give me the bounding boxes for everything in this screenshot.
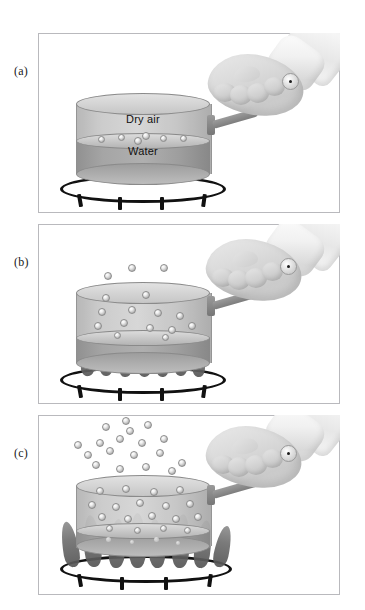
molecule	[160, 435, 168, 443]
molecule	[124, 515, 132, 523]
burner-leg	[164, 577, 168, 590]
molecule	[172, 515, 180, 523]
burner-leg	[118, 197, 122, 210]
molecule	[98, 136, 105, 143]
water-label: Water	[76, 145, 210, 157]
burner-leg	[118, 388, 122, 401]
evaporation-figure: Dry air Water	[0, 0, 365, 610]
molecule	[122, 485, 130, 493]
panel-label-a: (a)	[14, 64, 28, 79]
molecule	[134, 137, 142, 145]
ring-icon	[280, 445, 297, 462]
ring-icon	[282, 73, 299, 90]
panel-a: Dry air Water	[38, 33, 340, 213]
bubble	[154, 537, 159, 542]
panel-c	[38, 415, 340, 595]
molecule	[142, 291, 150, 299]
molecule	[142, 132, 150, 140]
molecule	[112, 503, 120, 511]
molecule	[92, 461, 100, 469]
panel-c-scene	[38, 415, 340, 595]
molecule	[150, 488, 158, 496]
pot: Dry air Water	[76, 93, 210, 185]
molecule	[184, 527, 191, 534]
molecule	[156, 449, 164, 457]
molecule	[94, 322, 102, 330]
panel-label-c: (c)	[14, 446, 28, 461]
molecule	[128, 264, 136, 272]
molecule	[88, 501, 96, 509]
bubble	[130, 540, 134, 544]
burner-leg	[207, 574, 213, 587]
burner-leg	[120, 577, 124, 590]
burner-leg	[160, 197, 164, 210]
molecule	[188, 322, 196, 330]
water-surface-ellipse	[76, 330, 210, 346]
molecule	[130, 451, 138, 459]
pot	[76, 282, 210, 374]
ring-stone	[289, 80, 292, 83]
molecule	[176, 486, 184, 494]
burner-leg	[201, 385, 207, 398]
molecule	[160, 135, 167, 142]
ring-icon	[280, 258, 297, 275]
pot	[76, 475, 210, 557]
molecule	[160, 264, 168, 272]
molecule	[116, 465, 124, 473]
burner-leg	[160, 388, 164, 401]
dry-air-label: Dry air	[76, 113, 210, 125]
panel-label-b: (b)	[14, 255, 29, 270]
molecule	[162, 334, 169, 341]
molecule	[146, 324, 154, 332]
molecule	[168, 326, 176, 334]
molecule	[160, 525, 167, 532]
molecule	[180, 135, 187, 142]
ring-stone	[287, 452, 290, 455]
molecule	[96, 439, 104, 447]
molecule	[138, 439, 146, 447]
molecule	[168, 467, 176, 475]
molecule	[74, 441, 82, 449]
bubble	[106, 537, 111, 542]
molecule	[162, 502, 170, 510]
pot-base-ellipse	[76, 163, 210, 185]
panel-b	[38, 224, 340, 404]
molecule	[104, 272, 112, 280]
molecule	[98, 513, 106, 521]
molecule	[106, 525, 113, 532]
molecule	[106, 447, 114, 455]
panel-b-scene	[38, 224, 340, 404]
molecule	[148, 512, 156, 520]
molecule	[134, 527, 141, 534]
pot-rim-ellipse	[76, 93, 210, 115]
molecule	[96, 487, 104, 495]
molecule	[144, 421, 152, 429]
panel-a-scene: Dry air Water	[38, 33, 340, 213]
molecule	[194, 513, 202, 521]
molecule	[116, 435, 124, 443]
molecule	[176, 312, 184, 320]
molecule	[136, 499, 144, 507]
molecule	[128, 306, 136, 314]
molecule	[120, 319, 128, 327]
molecule	[84, 451, 92, 459]
ring-stone	[287, 265, 290, 268]
molecule	[126, 427, 134, 435]
molecule	[142, 463, 150, 471]
molecule	[154, 309, 162, 317]
molecule	[102, 294, 110, 302]
molecule	[102, 423, 110, 431]
molecule	[118, 134, 125, 141]
molecule	[186, 500, 194, 508]
molecule	[98, 308, 106, 316]
pot-base-ellipse	[76, 352, 210, 374]
molecule	[178, 459, 186, 467]
molecule	[122, 417, 130, 425]
bubble	[176, 541, 180, 545]
burner-leg	[201, 194, 207, 207]
molecule	[114, 332, 121, 339]
